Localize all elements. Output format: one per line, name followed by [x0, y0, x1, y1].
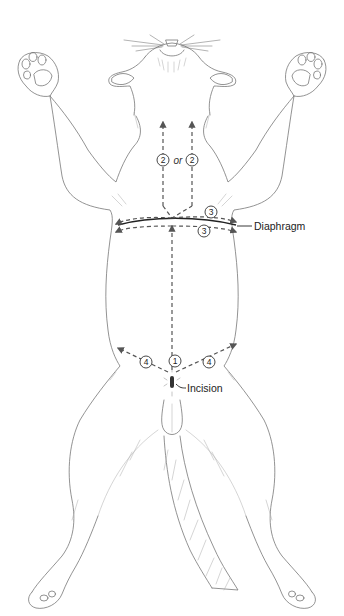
step-badge-2a: 2 — [157, 154, 169, 166]
right-ear-outline — [210, 74, 232, 85]
left-hindpaw-outline — [29, 516, 98, 608]
step-badge-4a: 4 — [140, 356, 152, 368]
tail-fur — [164, 450, 230, 590]
or-label: or — [174, 155, 184, 166]
svg-text:4: 4 — [207, 357, 212, 367]
step-badge-3b: 3 — [198, 225, 210, 237]
cut-lines — [116, 122, 252, 388]
step-badge-3a: 3 — [205, 206, 217, 218]
incision-label: Incision — [187, 382, 223, 394]
cat-outline — [18, 35, 326, 608]
chin-fur — [158, 58, 186, 72]
left-inner-thigh — [98, 430, 158, 516]
svg-text:3: 3 — [209, 207, 214, 217]
svg-text:2: 2 — [190, 155, 195, 165]
incision-mark — [164, 368, 180, 396]
incision-leader-line — [176, 384, 186, 388]
left-forepaw-outline — [18, 60, 50, 97]
diaphragm-line — [118, 218, 236, 225]
svg-text:1: 1 — [173, 356, 178, 366]
left-forepaw-pads — [22, 53, 52, 86]
right-hindpaw-outline — [246, 516, 315, 608]
cut-line-step-3b — [116, 226, 172, 232]
chin-outline — [160, 50, 184, 56]
right-forepaw-outline — [294, 60, 326, 97]
body-fur — [72, 112, 272, 520]
step-badge-1: 1 — [169, 355, 181, 367]
head-outline — [109, 43, 236, 115]
svg-text:3: 3 — [202, 226, 207, 236]
cat-dissection-diagram: 1 2 or 2 3 3 4 4 Diaphragm Incision — [0, 0, 344, 616]
step-badge-4b: 4 — [203, 356, 215, 368]
right-hindpaw-pads — [289, 591, 305, 601]
diaphragm-label: Diaphragm — [254, 220, 306, 232]
cut-line-step-2-junction — [163, 206, 192, 218]
svg-text:4: 4 — [144, 357, 149, 367]
left-ear-outline — [112, 74, 134, 85]
right-body-outline — [224, 96, 312, 592]
right-inner-thigh — [186, 430, 246, 516]
step-badge-2b: 2 — [186, 154, 198, 166]
svg-text:2: 2 — [161, 155, 166, 165]
left-hindpaw-pads — [40, 591, 56, 601]
left-body-outline — [32, 96, 120, 592]
tail-outline — [164, 436, 238, 590]
right-forepaw-pads — [292, 53, 322, 86]
